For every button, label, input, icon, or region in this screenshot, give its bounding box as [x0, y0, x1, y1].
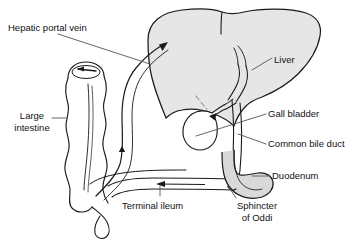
label-large-intestine-line1: Large [10, 110, 54, 121]
arrow-portal-ascending [119, 146, 125, 152]
label-sphincter-of-oddi-line2: of Oddi [226, 212, 288, 223]
label-duodenum: Duodenum [272, 170, 318, 181]
arrow-ileum-flow [156, 181, 205, 187]
label-gall-bladder: Gall bladder [268, 108, 319, 119]
label-common-bile-duct: Common bile duct [268, 138, 345, 149]
label-sphincter-of-oddi-line1: Sphincter [226, 200, 288, 211]
label-terminal-ileum: Terminal ileum [122, 200, 183, 211]
large-intestine-body [65, 62, 109, 238]
label-liver: Liver [274, 54, 295, 65]
leader-hepatic-portal-vein [58, 34, 150, 64]
anatomy-diagram-canvas: Hepatic portal vein Liver Large intestin… [0, 0, 364, 248]
label-large-intestine-line2: intestine [4, 122, 60, 133]
colon-flow-line [90, 170, 186, 184]
leader-common-bile-duct [238, 134, 266, 144]
terminal-ileum-body [108, 178, 230, 197]
duodenum-body [222, 150, 273, 198]
label-hepatic-portal-vein: Hepatic portal vein [8, 22, 87, 33]
